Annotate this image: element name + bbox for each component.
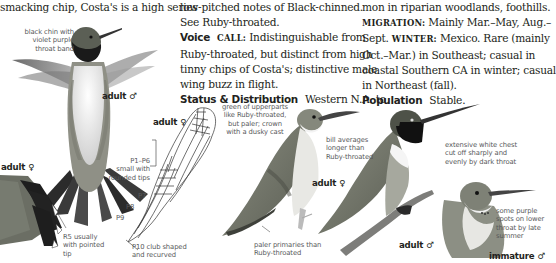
text-line: smacking chip, Costa's is a high series [0,0,198,15]
population-text: Stable. [429,94,465,106]
voice-heading: Voice [180,31,210,43]
caption-p7: P7 [138,192,146,200]
caption-p10: P10 club shaped and recurved [132,243,187,260]
caption-line: some purple [496,207,544,215]
migration-line: MIGRATION: Mainly Mar.–May, Aug.– [362,15,556,31]
body-text-col3: mon in riparian woodlands, foothills. MI… [362,0,556,108]
caption-paler-primaries: paler primaries than Ruby-throated [254,241,321,258]
text-line: low-pitched notes of Black-chinned. [180,0,386,15]
migration-label: MIGRATION: [362,18,425,28]
caption-line: like Ruby-throated, [219,111,291,119]
text-line: in Northeast (fall). [362,78,556,93]
caption-line: throat by late [496,224,544,232]
population-heading: Population [362,94,422,106]
caption-line: small with [98,165,150,173]
text-line: See Ruby-throated. [180,15,386,30]
caption-line: and recurved [132,251,187,259]
population-section: Population Stable. [362,93,556,108]
caption-green-upperparts: green of upperparts like Ruby-throated, … [219,103,291,137]
caption-black-chin: black chin with violet purple throat ban… [14,28,74,53]
caption-p9: P9 [116,214,124,222]
caption-line: bill averages [326,136,373,144]
text-line: Ruby-throated, but distinct from high [180,47,386,62]
winter-line: Sept. WINTER: Mexico. Rare (mainly [362,31,556,47]
caption-p8: P8 [126,203,134,211]
text-fragment: Sept. [362,32,389,44]
body-text-col1: smacking chip, Costa's is a high series [0,0,198,15]
label-immature-male: immature ♂ [489,251,545,261]
caption-p1-p6: P1–P6 small with rounded tips [98,157,150,182]
caption-line: black chin with [14,28,74,36]
caption-line: R5 usually [63,233,104,241]
caption-line: P10 club shaped [132,243,187,251]
text-line: wing buzz in flight. [180,77,386,92]
text-line: tinny chips of Costa's; distinctive male [180,62,386,77]
caption-line: violet purple [14,36,74,44]
voice-section: Voice CALL: Indistinguishable from [180,30,386,46]
caption-line: Ruby-throated [326,153,373,161]
body-text-col2: low-pitched notes of Black-chinned. See … [180,0,386,107]
caption-extensive-white: extensive white chest cut off sharply an… [445,141,517,166]
caption-line: longer than [326,144,373,152]
migration-text: Mainly Mar.–May, Aug.– [428,16,551,28]
caption-line: evenly by dark throat [445,158,517,166]
caption-line: with pointed [63,241,104,249]
caption-purple-spots: some purple spots on lower throat by lat… [496,207,544,241]
voice-text: Indistinguishable from [249,31,365,43]
label-adult-male-perched: adult ♂ [399,240,433,250]
caption-line: but paler; crown [219,120,291,128]
caption-line: Ruby-throated [254,249,321,257]
caption-line: paler primaries than [254,241,321,249]
text-line: mon in riparian woodlands, foothills. [362,0,556,15]
label-adult-female-perched: adult ♀ [312,178,345,188]
caption-line: with a dusky cast [219,128,291,136]
caption-line: spots on lower [496,215,544,223]
text-line: Oct.–Mar.) in Southeast; casual in [362,48,556,63]
winter-text: Mexico. Rare (mainly [440,32,550,44]
caption-line: extensive white chest [445,141,517,149]
caption-bill-averages: bill averages longer than Ruby-throated [326,136,373,161]
caption-line: summer [496,232,544,240]
winter-label: WINTER: [392,34,437,44]
text-line: coastal Southern CA in winter; casual [362,63,556,78]
caption-line: cut off sharply and [445,149,517,157]
caption-r5: R5 usually with pointed tip [63,233,104,258]
caption-line: rounded tips [98,174,150,182]
call-label: CALL: [217,33,246,43]
label-adult-female-tail: adult ♀ [1,162,34,172]
label-adult-female-wing: adult ♀ [153,117,186,127]
caption-line: green of upperparts [219,103,291,111]
caption-line: tip [63,250,104,258]
caption-line: throat band [14,45,74,53]
caption-line: P1–P6 [98,157,150,165]
label-adult-male-flying: adult ♂ [102,91,136,101]
